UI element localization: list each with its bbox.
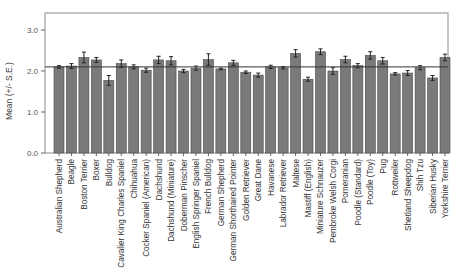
category-label: Dachshund (Miniature): [167, 159, 176, 242]
category-label: Boxer: [92, 159, 101, 181]
bar-group: [203, 54, 213, 153]
bar-group: [216, 68, 226, 153]
category-label: Pug: [379, 159, 388, 174]
category-label: Siberian Husky: [429, 158, 438, 214]
category-label: German Shorthaired Pointer: [229, 159, 238, 262]
category-label: Rottweiler: [391, 159, 400, 196]
category-label: German Shepherd: [217, 159, 226, 227]
category-label: Mastiff (English): [304, 159, 313, 218]
category-label: Australian Shepherd: [55, 159, 64, 234]
bar: [340, 60, 350, 153]
bar: [378, 61, 388, 153]
bar: [266, 67, 276, 153]
category-label: Dachshund: [155, 159, 164, 201]
bar: [390, 74, 400, 153]
bar: [116, 64, 126, 153]
bar: [440, 57, 450, 153]
y-axis-label: Mean (+/- S.E.): [4, 62, 14, 120]
bar-group: [228, 60, 238, 153]
category-label: Havanese: [267, 159, 276, 196]
category-label: Cocker Spaniel (American): [142, 159, 151, 257]
category-label: French Bulldog: [204, 159, 213, 215]
bar: [241, 72, 251, 153]
bar: [191, 68, 201, 153]
bar: [203, 60, 213, 153]
category-label: Beagle: [67, 159, 76, 185]
y-tick-label: 0.0: [27, 149, 39, 158]
category-label: Chihuahua: [130, 159, 139, 199]
bar-group: [428, 76, 438, 153]
bar: [291, 53, 301, 153]
category-label: English Springer Spaniel: [192, 159, 201, 249]
bar-group: [166, 57, 176, 153]
category-label: Bulldog: [105, 159, 114, 187]
bar: [129, 67, 139, 153]
category-label: Poodle (Toy): [366, 159, 375, 205]
bar: [228, 63, 238, 153]
category-label: Cavalier King Charles Spaniel: [117, 159, 126, 268]
category-label: Golden Retriever: [242, 159, 251, 221]
bar: [253, 75, 263, 153]
bar: [303, 79, 313, 153]
bar: [104, 80, 114, 153]
bar-group: [253, 73, 263, 153]
bar-group: [66, 64, 76, 153]
y-tick-label: 3.0: [27, 26, 39, 35]
category-label: Shetland Sheepdog: [404, 159, 413, 231]
bar-group: [353, 64, 363, 153]
bar-group: [440, 54, 450, 153]
bar: [179, 71, 189, 153]
bar-group: [315, 49, 325, 153]
category-label: Labrador Retriever: [279, 159, 288, 228]
category-label: Miniature Schnauzer: [316, 159, 325, 234]
category-label: Great Dane: [254, 159, 263, 202]
y-tick-label: 1.0: [27, 108, 39, 117]
bar: [54, 67, 64, 153]
bar: [154, 60, 164, 153]
bar-group: [328, 68, 338, 153]
category-label: Shih Tzu: [416, 159, 425, 192]
category-label: Poodle (Standard): [354, 159, 363, 226]
y-tick-label: 2.0: [27, 67, 39, 76]
bar-group: [191, 66, 201, 153]
bar: [79, 57, 89, 153]
category-label: Pembroke Welsh Corgi: [329, 159, 338, 243]
bar-chart: 0.01.02.03.0Mean (+/- S.E.) Australian S…: [0, 0, 460, 272]
category-label: Doberman Pinscher: [180, 159, 189, 232]
bar-group: [278, 66, 288, 153]
bar-group: [104, 76, 114, 153]
bar: [216, 69, 226, 153]
category-label: Boston Terrier: [80, 159, 89, 210]
bar: [278, 68, 288, 153]
bar: [365, 55, 375, 153]
bar-group: [303, 77, 313, 153]
bar-group: [154, 56, 164, 153]
bar-group: [378, 57, 388, 153]
category-label: Pomeranian: [341, 159, 350, 204]
bar-group: [141, 68, 151, 153]
bar: [66, 66, 76, 153]
bar: [328, 71, 338, 153]
category-label: Yorkshire Terrier: [441, 159, 450, 218]
bar: [415, 68, 425, 153]
bar-group: [54, 66, 64, 153]
bar: [166, 61, 176, 153]
bar-group: [266, 65, 276, 153]
bar-group: [340, 56, 350, 153]
bar-group: [129, 65, 139, 153]
bar: [91, 60, 101, 153]
bar: [403, 73, 413, 153]
bar-group: [390, 73, 400, 153]
bar-group: [415, 66, 425, 153]
bar-group: [116, 60, 126, 153]
bar-group: [403, 71, 413, 153]
bar-group: [291, 50, 301, 153]
bar-group: [91, 57, 101, 153]
bar-group: [179, 69, 189, 153]
category-label: Maltese: [292, 159, 301, 188]
bar: [141, 70, 151, 153]
bar: [353, 66, 363, 153]
bar-group: [241, 71, 251, 153]
bar: [428, 78, 438, 153]
